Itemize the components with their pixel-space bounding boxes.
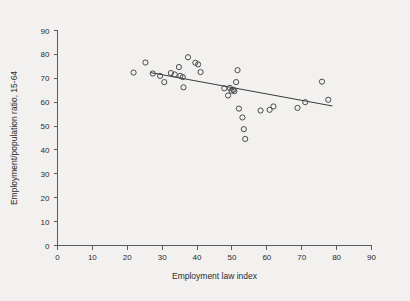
x-axis-title: Employment law index xyxy=(172,271,258,281)
x-tick-label: 0 xyxy=(55,253,60,262)
y-tick-label: 90 xyxy=(41,27,50,36)
plot-background xyxy=(0,0,410,301)
x-tick-label: 70 xyxy=(297,253,306,262)
x-tick-label: 20 xyxy=(123,253,132,262)
y-tick-label: 70 xyxy=(41,74,50,83)
x-tick-label: 60 xyxy=(262,253,271,262)
x-tick-label: 90 xyxy=(367,253,376,262)
y-tick-label: 0 xyxy=(45,242,50,251)
y-tick-label: 30 xyxy=(41,170,50,179)
x-tick-label: 40 xyxy=(193,253,202,262)
x-tick-label: 30 xyxy=(158,253,167,262)
y-tick-label: 40 xyxy=(41,146,50,155)
y-tick-label: 60 xyxy=(41,98,50,107)
x-tick-label: 80 xyxy=(332,253,341,262)
scatter-chart: 01020304050607080900102030405060708090 E… xyxy=(0,0,410,301)
y-tick-label: 50 xyxy=(41,122,50,131)
y-tick-label: 10 xyxy=(41,218,50,227)
y-tick-label: 20 xyxy=(41,194,50,203)
x-tick-label: 50 xyxy=(227,253,236,262)
x-tick-label: 10 xyxy=(88,253,97,262)
y-tick-label: 80 xyxy=(41,50,50,59)
chart-canvas: 01020304050607080900102030405060708090 E… xyxy=(0,0,410,301)
y-axis-title: Employment/population ratio, 15-64 xyxy=(9,71,19,205)
